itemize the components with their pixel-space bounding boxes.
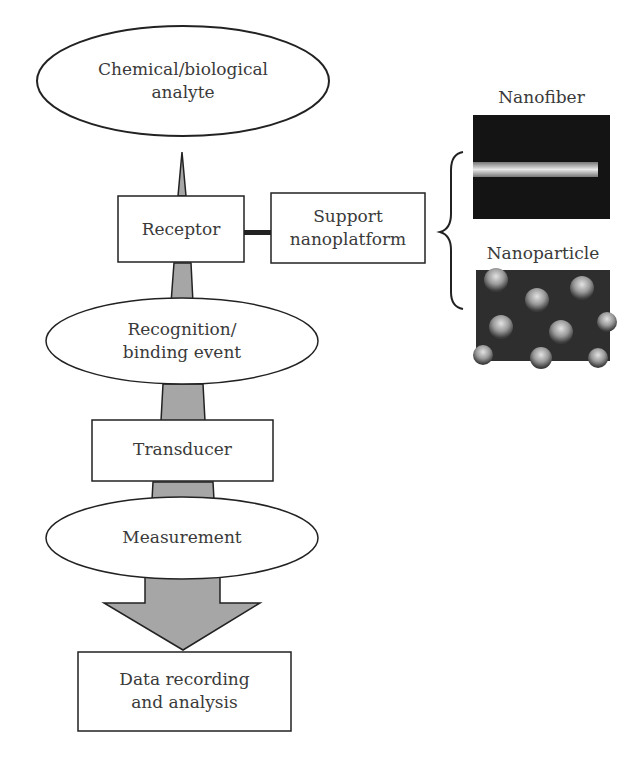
nanoparticle-text: Nanoparticle: [470, 242, 616, 265]
nanofiber-text: Nanofiber: [473, 86, 610, 109]
analyte-line1: Chemical/biological: [60, 58, 306, 81]
data-label: Data recording and analysis: [78, 668, 291, 714]
analyte-label: Chemical/biological analyte: [60, 58, 306, 104]
transducer-label: Transducer: [92, 438, 273, 461]
recognition-label: Recognition/ binding event: [60, 318, 304, 364]
nanoparticle-image: [473, 268, 617, 369]
recognition-line1: Recognition/: [60, 318, 304, 341]
measurement-label: Measurement: [60, 526, 304, 549]
curly-brace: [440, 152, 463, 309]
analyte-line2: analyte: [60, 81, 306, 104]
connector-bar: [244, 230, 271, 235]
nanoparticle-caption: Nanoparticle: [470, 242, 616, 265]
diagram-canvas: [0, 0, 634, 767]
support-line2: nanoplatform: [271, 228, 425, 251]
data-line2: and analysis: [78, 691, 291, 714]
support-label: Support nanoplatform: [271, 205, 425, 251]
nanofiber-image: [473, 115, 610, 219]
support-line1: Support: [271, 205, 425, 228]
receptor-label: Receptor: [118, 218, 244, 241]
recognition-line2: binding event: [60, 341, 304, 364]
measurement-text: Measurement: [60, 526, 304, 549]
transducer-text: Transducer: [92, 438, 273, 461]
receptor-text: Receptor: [118, 218, 244, 241]
nanofiber-caption: Nanofiber: [473, 86, 610, 109]
data-line1: Data recording: [78, 668, 291, 691]
